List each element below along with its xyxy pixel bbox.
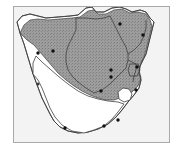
point-marker bbox=[134, 88, 137, 91]
point-marker bbox=[118, 22, 121, 25]
lesotho-enclave bbox=[118, 88, 132, 102]
point-marker bbox=[135, 65, 138, 68]
point-marker bbox=[36, 51, 39, 54]
point-marker bbox=[37, 83, 40, 86]
point-marker bbox=[109, 75, 112, 78]
point-marker bbox=[102, 124, 105, 127]
point-marker bbox=[109, 68, 112, 71]
point-marker bbox=[51, 49, 54, 52]
point-marker bbox=[116, 118, 119, 121]
distribution-map-figure: Southern Africa bbox=[0, 0, 182, 164]
map-canvas bbox=[0, 0, 182, 164]
point-marker bbox=[99, 89, 102, 92]
point-marker bbox=[141, 33, 144, 36]
point-marker bbox=[63, 126, 66, 129]
